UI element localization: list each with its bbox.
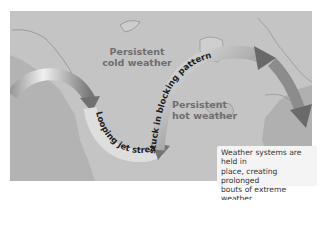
- callout-box: Weather systems are held in place, creat…: [217, 146, 317, 186]
- callout-line: Weather systems are held in: [221, 148, 313, 167]
- cold-label-line1: Persistent: [110, 46, 165, 57]
- callout-line: place, creating prolonged: [221, 167, 313, 186]
- cold-label-line2: cold weather: [102, 57, 172, 68]
- hot-label-line1: Persistent: [172, 99, 227, 110]
- hot-weather-label: Persistent hot weather: [172, 99, 262, 121]
- hot-label-line2: hot weather: [172, 110, 237, 121]
- callout-line: bouts of extreme weather: [221, 185, 313, 200]
- cold-weather-label: Persistent cold weather: [92, 46, 182, 68]
